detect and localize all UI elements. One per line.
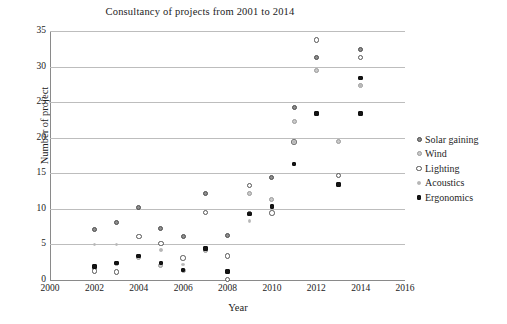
plot-area: [50, 31, 405, 281]
gridline: [50, 31, 405, 32]
legend-label: Wind: [424, 148, 447, 159]
data-point: [136, 254, 141, 259]
data-point: [269, 197, 274, 202]
data-point: [114, 261, 119, 266]
legend-marker: [417, 181, 421, 185]
y-tick-label: 30: [20, 61, 46, 71]
data-point: [248, 219, 252, 223]
data-point: [181, 263, 185, 267]
legend-item[interactable]: Solar gaining: [414, 132, 507, 147]
data-point: [247, 183, 253, 189]
gridline: [50, 102, 405, 103]
light-grey-circle-marker-icon: [414, 149, 424, 159]
y-tick-label: 5: [20, 238, 46, 248]
data-point: [358, 47, 363, 52]
data-point: [92, 264, 97, 269]
data-point: [114, 269, 120, 275]
legend-marker: [416, 166, 422, 172]
data-point: [181, 234, 186, 239]
data-point: [314, 68, 319, 73]
data-point: [203, 210, 209, 216]
legend-label: Lighting: [424, 163, 459, 174]
data-point: [203, 246, 208, 251]
gridline: [50, 138, 405, 139]
legend-item[interactable]: Wind: [414, 147, 507, 162]
data-point: [269, 210, 275, 216]
data-point: [314, 37, 320, 43]
y-axis-tick-labels: 05101520253035: [12, 31, 46, 281]
y-tick-label: 10: [20, 203, 46, 213]
legend-label: Ergonomics: [424, 192, 473, 203]
chart-title: Consultancy of projects from 2001 to 201…: [0, 6, 400, 17]
data-point: [292, 119, 297, 124]
legend-marker: [417, 151, 422, 156]
grey-filled-circle-marker-icon: [414, 134, 424, 144]
data-point: [314, 111, 319, 116]
data-point: [358, 55, 364, 61]
data-point: [358, 76, 363, 81]
x-axis-title: Year: [208, 302, 268, 313]
x-tick-label: 2012: [296, 283, 336, 293]
data-point: [92, 227, 97, 232]
x-tick-label: 2010: [252, 283, 292, 293]
data-point: [92, 268, 98, 274]
data-point: [158, 226, 163, 231]
y-tick-label: 20: [20, 132, 46, 142]
data-point: [114, 220, 119, 225]
data-point: [247, 191, 252, 196]
data-point: [292, 105, 297, 110]
gridline: [50, 244, 405, 245]
x-tick-label: 2014: [341, 283, 381, 293]
scatter-chart: Consultancy of projects from 2001 to 201…: [0, 0, 507, 324]
black-square-marker-icon: [414, 192, 424, 202]
gridline: [50, 67, 405, 68]
data-point: [314, 55, 319, 60]
data-point: [180, 255, 186, 261]
x-axis-tick-labels: 200020022004200620082010201220142016: [0, 283, 507, 299]
data-point: [247, 212, 252, 217]
small-grey-dot-marker-icon: [414, 178, 424, 188]
x-tick-label: 2004: [119, 283, 159, 293]
gridline: [50, 173, 405, 174]
legend-label: Acoustics: [424, 177, 464, 188]
data-point: [136, 234, 142, 240]
data-point: [159, 248, 163, 252]
data-point: [159, 261, 164, 266]
legend-item[interactable]: Acoustics: [414, 176, 507, 191]
gridline: [50, 209, 405, 210]
y-tick-label: 35: [20, 25, 46, 35]
data-point: [269, 175, 274, 180]
data-point: [292, 162, 297, 167]
data-point: [336, 182, 341, 187]
legend-item[interactable]: Lighting: [414, 161, 507, 176]
x-tick-label: 2000: [30, 283, 70, 293]
x-tick-label: 2002: [74, 283, 114, 293]
y-tick-label: 25: [20, 96, 46, 106]
legend-marker: [417, 195, 422, 200]
data-point: [93, 243, 97, 247]
data-point: [292, 140, 296, 144]
data-point: [336, 173, 342, 179]
open-circle-marker-icon: [414, 163, 424, 173]
legend-label: Solar gaining: [424, 134, 479, 145]
x-tick-label: 2016: [385, 283, 425, 293]
data-point: [336, 139, 341, 144]
x-tick-label: 2006: [163, 283, 203, 293]
data-point: [225, 233, 230, 238]
legend-item[interactable]: Ergonomics: [414, 190, 507, 205]
legend-marker: [417, 137, 422, 142]
data-point: [270, 204, 275, 209]
data-point: [358, 111, 363, 116]
data-point: [225, 277, 231, 283]
data-point: [115, 243, 119, 247]
data-point: [181, 268, 186, 273]
legend: Solar gainingWindLightingAcousticsErgono…: [414, 132, 507, 205]
data-point: [158, 241, 164, 247]
data-point: [225, 269, 230, 274]
x-tick-label: 2008: [208, 283, 248, 293]
data-point: [359, 84, 363, 88]
data-point: [203, 191, 208, 196]
y-tick-label: 15: [20, 167, 46, 177]
data-point: [225, 253, 231, 259]
